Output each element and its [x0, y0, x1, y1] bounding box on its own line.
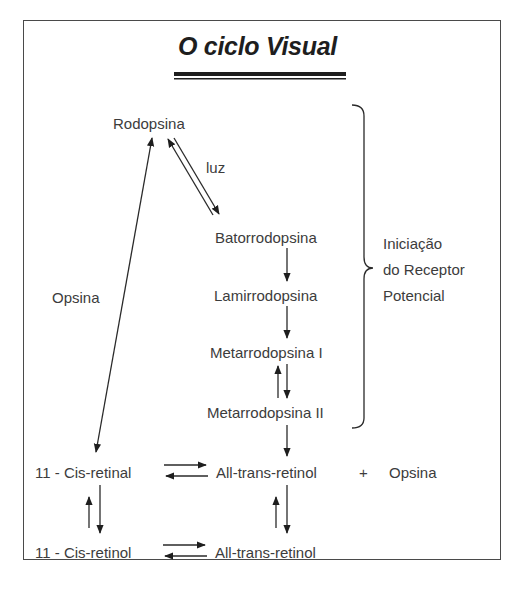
brace-label-line1: Iniciação: [383, 236, 442, 251]
node-rodopsina: Rodopsina: [113, 116, 185, 131]
label-opsina-side: Opsina: [52, 290, 100, 305]
node-all-trans-retinal: All-trans-retinol: [216, 465, 317, 480]
node-lamirrodopsina: Lamirrodopsina: [214, 288, 317, 303]
node-batorrodopsina: Batorrodopsina: [215, 230, 317, 245]
arrow-luz-forward: [174, 138, 219, 214]
arrow-opsina-long: [96, 138, 152, 452]
brace-label-line3: Potencial: [383, 288, 445, 303]
label-luz: luz: [206, 160, 225, 175]
arrow-luz-back: [168, 139, 213, 215]
node-11-cis-retinol: 11 - Cis-retinol: [35, 545, 131, 560]
title-underline: [174, 72, 346, 80]
node-opsina-product: Opsina: [389, 465, 437, 480]
plus-sign: +: [359, 465, 368, 480]
node-all-trans-retinol: All-trans-retinol: [215, 545, 316, 560]
node-11-cis-retinal: 11 - Cis-retinal: [35, 465, 131, 480]
brace-label-line2: do Receptor: [383, 262, 465, 277]
node-metarrodopsina-2: Metarrodopsina II: [207, 405, 324, 420]
node-metarrodopsina-1: Metarrodopsina I: [210, 345, 323, 360]
curly-brace: [352, 105, 373, 428]
